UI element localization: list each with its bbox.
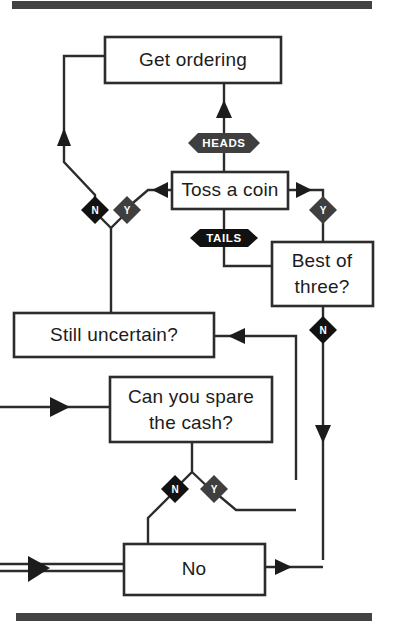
arrowhead-external-in-cash: [50, 397, 70, 417]
arrowhead-external-in-no: [28, 556, 50, 582]
heads-banner-label: HEADS: [202, 137, 245, 149]
best-of-three-label-line2: three?: [294, 276, 349, 297]
decision-toss-no[interactable]: N: [81, 196, 109, 224]
banner-heads: HEADS: [188, 133, 260, 153]
toss-a-coin-label: Toss a coin: [181, 179, 278, 200]
node-get-ordering[interactable]: Get ordering: [105, 37, 281, 83]
node-still-uncertain[interactable]: Still uncertain?: [14, 313, 214, 357]
bottom-rule: [16, 613, 372, 621]
edge-still-uncertain-no-to-get-ordering: [64, 56, 105, 200]
node-can-you-spare-the-cash[interactable]: Can you spare the cash?: [110, 377, 272, 442]
arrowhead-to-toss-right: [296, 182, 312, 198]
arrowhead-to-get-ordering: [57, 128, 71, 146]
decision-best-no-label: N: [319, 325, 326, 336]
decision-toss-no-label: N: [91, 205, 98, 216]
tails-banner-label: TAILS: [206, 232, 241, 244]
arrowhead-heads-up: [216, 100, 232, 118]
decision-cash-yes-label: Y: [211, 484, 218, 495]
decision-best-of-three-yes[interactable]: Y: [309, 196, 337, 224]
top-rule: [12, 1, 372, 9]
can-you-spare-label-line2: the cash?: [149, 412, 233, 433]
flowchart-page: Get ordering Toss a coin Best of three? …: [0, 0, 396, 633]
banner-tails: TAILS: [190, 229, 258, 247]
can-you-spare-label-line1: Can you spare: [128, 386, 254, 407]
arrowhead-to-still-uncertain: [228, 328, 245, 344]
node-best-of-three[interactable]: Best of three?: [272, 242, 373, 306]
still-uncertain-label: Still uncertain?: [50, 324, 178, 345]
no-label: No: [182, 558, 207, 579]
decision-best-of-three-no[interactable]: N: [309, 316, 337, 344]
arrowhead-to-no-right: [275, 559, 292, 575]
node-toss-a-coin[interactable]: Toss a coin: [172, 172, 288, 209]
flowchart-svg: Get ordering Toss a coin Best of three? …: [0, 0, 396, 633]
edge-to-still-uncertain-right: [214, 336, 296, 337]
get-ordering-label: Get ordering: [139, 49, 247, 70]
decision-best-yes-label: Y: [320, 205, 327, 216]
decision-toss-yes-label: Y: [124, 205, 131, 216]
arrowhead-down-right-rail: [315, 425, 331, 443]
edge-cash-no-to-no-box: [148, 494, 172, 544]
edge-cash-yes-to-rail: [217, 494, 296, 510]
arrowhead-to-toss-left: [152, 182, 168, 198]
edge-still-uncertain-stem: [111, 212, 127, 313]
node-no[interactable]: No: [124, 544, 265, 595]
decision-cash-no-label: N: [171, 484, 178, 495]
best-of-three-label-line1: Best of: [292, 250, 353, 271]
